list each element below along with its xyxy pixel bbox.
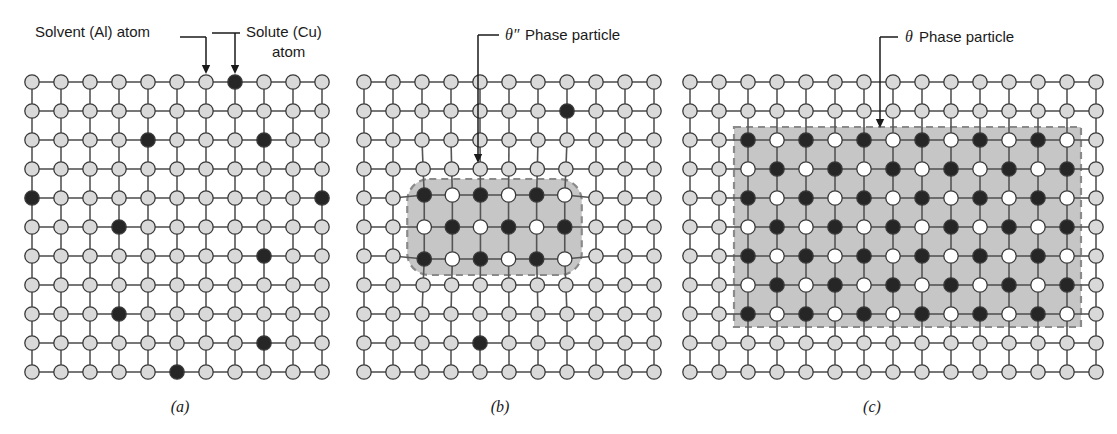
- solvent-atom: [857, 104, 871, 118]
- precipitate-solute-atom: [417, 252, 431, 266]
- solvent-atom: [770, 336, 784, 350]
- solute-atom: [170, 365, 184, 379]
- precipitate-solute-atom: [473, 188, 487, 202]
- solvent-atom: [683, 191, 697, 205]
- solvent-atom: [589, 104, 603, 118]
- solvent-atom: [1031, 104, 1045, 118]
- solvent-atom: [1089, 133, 1103, 147]
- solvent-atom: [618, 191, 632, 205]
- solvent-atom: [112, 75, 126, 89]
- precipitate-solvent-atom: [915, 220, 929, 234]
- solvent-atom: [1089, 365, 1103, 379]
- precipitate-solute-atom: [857, 133, 871, 147]
- solvent-atom: [386, 278, 400, 292]
- solvent-atom: [502, 162, 516, 176]
- solvent-atom: [502, 104, 516, 118]
- solvent-atom: [559, 278, 573, 292]
- solvent-atom: [1031, 336, 1045, 350]
- precipitate-solute-atom: [473, 252, 487, 266]
- solvent-atom: [886, 75, 900, 89]
- solvent-atom: [886, 336, 900, 350]
- solvent-atom: [315, 249, 329, 263]
- solvent-atom: [741, 75, 755, 89]
- solute-atom: [228, 75, 242, 89]
- precipitate-solvent-atom: [799, 220, 813, 234]
- solute-atom: [473, 336, 487, 350]
- precipitate-solute-atom: [741, 133, 755, 147]
- solvent-atom: [286, 220, 300, 234]
- solvent-atom: [25, 336, 39, 350]
- solvent-atom: [357, 220, 371, 234]
- solvent-atom: [973, 365, 987, 379]
- precipitate-solute-atom: [1002, 162, 1016, 176]
- solvent-atom: [199, 336, 213, 350]
- solvent-atom: [112, 278, 126, 292]
- solvent-atom: [357, 278, 371, 292]
- solvent-atom: [141, 162, 155, 176]
- solvent-atom: [83, 220, 97, 234]
- solvent-atom: [228, 133, 242, 147]
- solvent-atom: [315, 75, 329, 89]
- solvent-atom: [647, 162, 661, 176]
- solvent-atom: [83, 365, 97, 379]
- solvent-atom: [1089, 278, 1103, 292]
- solvent-atom: [386, 220, 400, 234]
- solvent-atom: [973, 336, 987, 350]
- solvent-atom: [531, 75, 545, 89]
- precipitate-solvent-atom: [1060, 307, 1074, 321]
- solvent-atom: [589, 162, 603, 176]
- solvent-atom: [915, 365, 929, 379]
- solvent-atom: [286, 104, 300, 118]
- solvent-atom: [531, 133, 545, 147]
- solvent-atom: [54, 365, 68, 379]
- solvent-atom: [589, 191, 603, 205]
- solvent-atom: [25, 133, 39, 147]
- solvent-atom: [54, 249, 68, 263]
- precipitate-solvent-atom: [1060, 249, 1074, 263]
- solvent-atom: [741, 104, 755, 118]
- solvent-atom: [112, 162, 126, 176]
- solvent-atom: [286, 191, 300, 205]
- solvent-atom: [199, 365, 213, 379]
- solvent-atom: [1089, 104, 1103, 118]
- solvent-atom: [357, 133, 371, 147]
- solvent-atom: [857, 336, 871, 350]
- solvent-atom: [741, 336, 755, 350]
- solvent-atom: [257, 104, 271, 118]
- precipitate-solute-atom: [770, 162, 784, 176]
- solvent-atom: [54, 162, 68, 176]
- precipitate-solvent-atom: [473, 220, 487, 234]
- precipitate-solvent-atom: [828, 249, 842, 263]
- precipitate-solute-atom: [558, 220, 572, 234]
- solvent-atom: [141, 75, 155, 89]
- precipitate-solute-atom: [445, 220, 459, 234]
- solvent-atom: [386, 162, 400, 176]
- solvent-atom: [618, 104, 632, 118]
- precipitate-solvent-atom: [1002, 307, 1016, 321]
- solvent-atom: [83, 133, 97, 147]
- precipitate-solvent-atom: [770, 307, 784, 321]
- solute-atom: [257, 336, 271, 350]
- precipitate-solute-atom: [973, 249, 987, 263]
- solvent-atom: [1089, 220, 1103, 234]
- caption-c: (c): [863, 398, 881, 416]
- solvent-atom: [286, 307, 300, 321]
- solvent-atom: [170, 133, 184, 147]
- solvent-atom: [1060, 75, 1074, 89]
- solvent-atom: [54, 307, 68, 321]
- solvent-atom: [1002, 336, 1016, 350]
- solvent-atom: [199, 191, 213, 205]
- precipitate-solvent-atom: [445, 252, 459, 266]
- solvent-atom: [25, 104, 39, 118]
- precipitate-solvent-atom: [944, 307, 958, 321]
- caption-b: (b): [491, 398, 510, 416]
- solute-atom: [112, 307, 126, 321]
- solvent-atom: [712, 365, 726, 379]
- precipitate-solute-atom: [1060, 162, 1074, 176]
- solvent-atom: [589, 133, 603, 147]
- solvent-atom: [170, 191, 184, 205]
- precipitate-solvent-atom: [1031, 278, 1045, 292]
- solvent-atom: [857, 75, 871, 89]
- solvent-atom: [170, 104, 184, 118]
- solvent-atom: [357, 162, 371, 176]
